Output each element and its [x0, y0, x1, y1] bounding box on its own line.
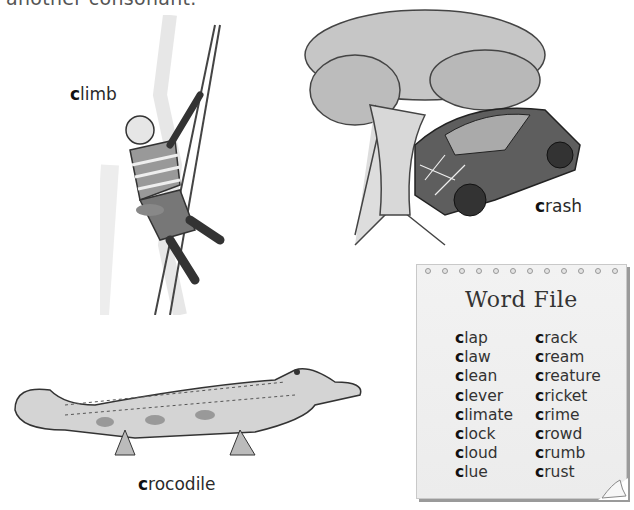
- word-column-cr: crack cream creature cricket crime crowd…: [535, 329, 615, 483]
- word-item: clean: [455, 367, 535, 386]
- label-crash: crash: [535, 196, 582, 216]
- climber-illustration: [100, 15, 250, 315]
- label-climb: climb: [70, 84, 117, 104]
- heading-fragment: another consonant.: [6, 0, 197, 9]
- word-item: climate: [455, 406, 535, 425]
- spiral-holes: [425, 268, 618, 274]
- word-item: cream: [535, 348, 615, 367]
- word-item: crumb: [535, 444, 615, 463]
- word-item: crowd: [535, 425, 615, 444]
- word-item: cricket: [535, 387, 615, 406]
- word-file-title: Word File: [417, 287, 626, 312]
- page-curl-icon: [598, 478, 628, 500]
- word-item: clap: [455, 329, 535, 348]
- word-column-cl: clap claw clean clever climate clock clo…: [455, 329, 535, 483]
- word-item: cloud: [455, 444, 535, 463]
- word-item: creature: [535, 367, 615, 386]
- label-crocodile: crocodile: [138, 474, 216, 494]
- word-item: clock: [455, 425, 535, 444]
- word-item: claw: [455, 348, 535, 367]
- word-item: crack: [535, 329, 615, 348]
- word-item: clue: [455, 463, 535, 482]
- word-item: clever: [455, 387, 535, 406]
- word-file-note: Word File clap claw clean clever climate…: [416, 264, 627, 499]
- crocodile-illustration: [5, 360, 370, 460]
- word-item: crime: [535, 406, 615, 425]
